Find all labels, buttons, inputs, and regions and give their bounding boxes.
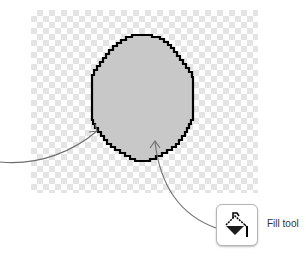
outline-callout-arrow [0,124,97,163]
diagram-overlay [0,0,306,269]
paint-bucket-icon [223,211,251,239]
fill-tool-label: Fill tool [267,218,299,229]
ellipse-shape [92,35,193,161]
filled-ellipse [92,35,193,161]
fill-tool-button[interactable] [216,204,258,246]
